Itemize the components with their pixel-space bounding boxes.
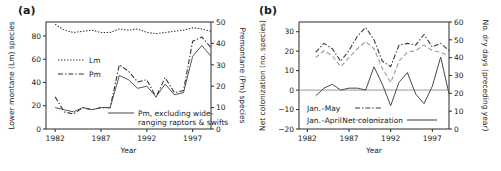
series-line-2: [316, 57, 449, 106]
y-axis-tick-label: 0: [36, 125, 41, 134]
panel-b: (b) −20−10010203001020304050601982198719…: [251, 0, 501, 171]
series-line-0: [316, 27, 449, 66]
y-axis-tick-label: −20: [278, 125, 294, 134]
legend-label-0: Jan.–May: [306, 104, 341, 113]
y-axis-tick-label: 20: [284, 47, 294, 56]
x-axis-tick-label: 1987: [339, 134, 358, 143]
panel-b-plot: −20−100102030010203040506019821987199219…: [251, 0, 501, 171]
x-axis-title: Year: [365, 146, 383, 155]
y-axis-tick-label: −10: [278, 105, 294, 114]
legend-label-2: Net colonization: [342, 116, 403, 125]
y2-axis-tick-label: 40: [216, 39, 226, 48]
panel-a: (a) 020406080010203040501982198719921997…: [0, 0, 250, 171]
legend-label-0: Lm: [89, 56, 100, 65]
y2-axis-title: Premontane (Pm) species: [238, 28, 247, 124]
panel-a-plot: 020406080010203040501982198719921997Year…: [0, 0, 250, 171]
x-axis-tick-label: 1997: [183, 134, 202, 143]
series-line-2: [55, 46, 211, 112]
y2-axis-tick-label: 40: [454, 53, 464, 62]
legend-label-2: Pm, excluding wide-: [138, 109, 214, 118]
y-axis-tick-label: 80: [31, 32, 41, 41]
y-axis-tick-label: 30: [284, 27, 294, 36]
panel-a-label: (a): [18, 4, 35, 17]
series-line-1: [316, 42, 449, 83]
y-axis-title: Net colonization (no. species): [258, 20, 267, 131]
y2-axis-tick-label: 10: [216, 103, 226, 112]
y2-axis-tick-label: 60: [454, 18, 464, 27]
x-axis-tick-label: 1997: [423, 134, 442, 143]
panel-b-label: (b): [259, 4, 277, 17]
x-axis-tick-label: 1992: [381, 134, 400, 143]
y2-axis-tick-label: 0: [454, 125, 459, 134]
y-axis-tick-label: 60: [31, 55, 41, 64]
y-axis-tick-label: 20: [31, 101, 41, 110]
y2-axis-tick-label: 20: [454, 89, 464, 98]
y-axis-tick-label: 40: [31, 78, 41, 87]
y-axis-tick-label: 0: [289, 86, 294, 95]
y2-axis-tick-label: 50: [454, 36, 464, 45]
x-axis-title: Year: [120, 146, 138, 155]
x-axis-tick-label: 1987: [91, 134, 110, 143]
y2-axis-tick-label: 50: [216, 18, 226, 27]
legend-label-1: Jan.–April: [306, 116, 342, 125]
y2-axis-tick-label: 30: [216, 61, 226, 70]
y2-axis-tick-label: 20: [216, 82, 226, 91]
y2-axis-tick-label: 10: [454, 107, 464, 116]
legend-label-2: ranging raptors & swifts: [138, 118, 228, 127]
y2-axis-tick-label: 30: [454, 71, 464, 80]
y-axis-title: Lower montane (Lm) species: [7, 21, 16, 130]
figure-container: (a) 020406080010203040501982198719921997…: [0, 0, 501, 171]
x-axis-tick-label: 1982: [46, 134, 65, 143]
x-axis-tick-label: 1992: [137, 134, 156, 143]
y-axis-tick-label: 10: [284, 66, 294, 75]
y2-axis-title: No. dry days (preceding year): [481, 20, 490, 132]
legend-label-1: Pm: [89, 70, 101, 79]
x-axis-tick-label: 1982: [298, 134, 317, 143]
series-line-0: [55, 24, 211, 33]
